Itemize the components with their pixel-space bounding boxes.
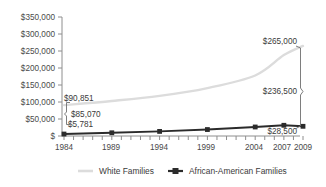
- y-tick-label: $200,000: [21, 64, 56, 73]
- annotation-gap-2009-value: $236,500: [263, 87, 298, 96]
- x-tick-label: 2004: [245, 143, 264, 152]
- legend-marker-african-american-families: [173, 168, 179, 174]
- data-point-marker: [301, 124, 306, 129]
- y-tick-label: $350,000: [21, 13, 56, 22]
- chart-canvas: $350,000 $300,000 $250,000 $200,000 $150…: [0, 0, 326, 187]
- data-point-marker: [205, 127, 210, 132]
- annotation-black-end-value: $28,500: [267, 127, 297, 136]
- legend-label-african-american-families: African-American Families: [189, 166, 287, 176]
- x-axis-minor-ticks: [64, 136, 303, 140]
- x-tick-label: 1984: [55, 143, 74, 152]
- y-tick-label: $: [50, 132, 55, 141]
- x-tick-label: 1994: [150, 143, 169, 152]
- wealth-gap-line-chart: $350,000 $300,000 $250,000 $200,000 $150…: [0, 0, 326, 187]
- y-tick-label: $250,000: [21, 47, 56, 56]
- data-point-marker: [157, 129, 162, 134]
- x-tick-label: 2009: [294, 143, 313, 152]
- annotation-white-start-value: $90,851: [64, 94, 94, 103]
- y-tick-label: $50,000: [25, 115, 55, 124]
- x-tick-label: 1999: [197, 143, 216, 152]
- series-line-white-families: [64, 46, 303, 105]
- x-axis-labels: 1984 1989 1994 1999 2004 2007 2009: [55, 143, 313, 152]
- annotation-white-end-value: $265,000: [263, 37, 298, 46]
- data-point-marker: [109, 130, 114, 135]
- annotation-gap-1984-value: $85,070: [71, 110, 101, 119]
- data-point-marker: [253, 125, 258, 130]
- x-tick-label: 1989: [102, 143, 121, 152]
- y-tick-label: $150,000: [21, 81, 56, 90]
- gap-brace-2009: [296, 46, 303, 129]
- legend-label-white-families: White Families: [99, 166, 154, 176]
- y-tick-label: $100,000: [21, 98, 56, 107]
- y-axis-ticks: [58, 17, 62, 136]
- y-tick-label: $300,000: [21, 30, 56, 39]
- annotation-black-start-value: $5,781: [68, 120, 93, 129]
- y-axis-labels: $350,000 $300,000 $250,000 $200,000 $150…: [21, 13, 56, 141]
- data-point-marker: [62, 132, 67, 137]
- x-tick-label: 2007: [273, 143, 292, 152]
- chart-legend: White Families African-American Families: [78, 166, 287, 176]
